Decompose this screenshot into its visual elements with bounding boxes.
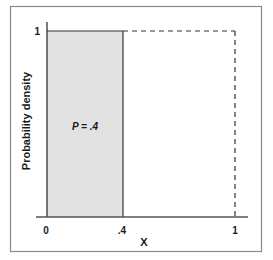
- x-tick-label-04: .4: [118, 225, 127, 236]
- y-axis-title: Probability density: [20, 71, 32, 170]
- x-tick-label-0: 0: [43, 225, 49, 236]
- probability-annotation: P = .4: [72, 121, 98, 132]
- chart-canvas: 1 0 .4 1 X Probability density P = .4: [0, 0, 273, 260]
- x-axis-title: X: [140, 236, 148, 248]
- x-tick-label-1: 1: [232, 225, 238, 236]
- uniform-distribution-figure: 1 0 .4 1 X Probability density P = .4: [0, 0, 273, 260]
- y-tick-label-1: 1: [34, 26, 40, 37]
